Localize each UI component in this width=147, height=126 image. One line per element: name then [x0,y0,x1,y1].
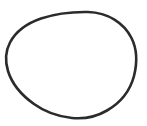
line-drawing-canvas [0,0,147,126]
canvas-background [0,0,147,126]
oval-outline-svg [0,0,147,126]
